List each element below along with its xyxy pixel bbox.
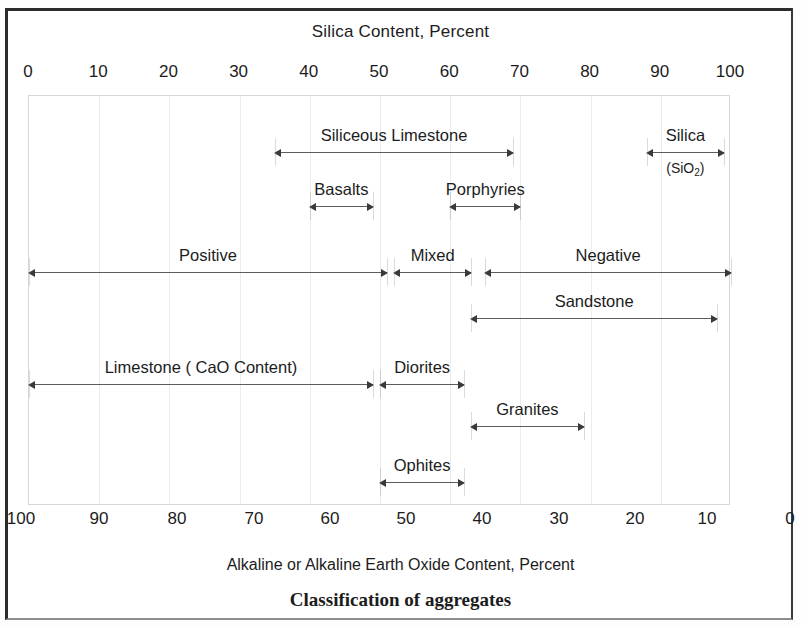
- range-end-cap: [380, 370, 381, 398]
- range-bar: [275, 152, 514, 153]
- range-end-cap: [731, 258, 732, 286]
- top-tick-80: 80: [560, 62, 620, 82]
- bottom-tick-90: 90: [69, 509, 129, 529]
- top-tick-0: 0: [0, 62, 58, 82]
- range-label: Silica: [666, 126, 705, 145]
- range-end-cap: [584, 412, 585, 440]
- top-tick-100: 100: [700, 62, 760, 82]
- range-bar: [380, 482, 464, 483]
- range-end-cap: [464, 370, 465, 398]
- range-sublabel: (SiO2): [666, 160, 704, 176]
- gridline: [240, 96, 241, 504]
- range-label: Basalts: [314, 180, 368, 199]
- range-end-cap: [471, 304, 472, 332]
- bottom-tick-80: 80: [147, 509, 207, 529]
- top-tick-60: 60: [419, 62, 479, 82]
- range-bar: [471, 318, 717, 319]
- range-label: Granites: [496, 400, 558, 419]
- top-tick-40: 40: [279, 62, 339, 82]
- range-end-cap: [275, 138, 276, 166]
- top-tick-20: 20: [138, 62, 198, 82]
- range-label: Limestone ( CaO Content): [105, 358, 298, 377]
- range-end-cap: [29, 258, 30, 286]
- range-bar: [29, 272, 387, 273]
- range-end-cap: [647, 138, 648, 166]
- bottom-tick-100: 100: [0, 509, 51, 529]
- bottom-tick-70: 70: [224, 509, 284, 529]
- range-label: Porphyries: [446, 180, 525, 199]
- bottom-tick-40: 40: [452, 509, 512, 529]
- range-label: Ophites: [394, 456, 451, 475]
- bottom-tick-0: 0: [760, 509, 801, 529]
- range-end-cap: [387, 258, 388, 286]
- range-bar: [647, 152, 724, 153]
- range-end-cap: [310, 192, 311, 220]
- bottom-tick-20: 20: [605, 509, 665, 529]
- top-tick-90: 90: [630, 62, 690, 82]
- gridline: [169, 96, 170, 504]
- gridline: [450, 96, 451, 504]
- top-tick-30: 30: [209, 62, 269, 82]
- range-label: Negative: [576, 246, 641, 265]
- range-label: Diorites: [394, 358, 450, 377]
- bottom-tick-50: 50: [376, 509, 436, 529]
- range-bar: [29, 384, 373, 385]
- figure-classification-of-aggregates: Silica Content, Percent 0102030405060708…: [0, 0, 801, 628]
- range-bar: [394, 272, 471, 273]
- top-tick-70: 70: [489, 62, 549, 82]
- range-bar: [380, 384, 464, 385]
- range-bar: [310, 206, 373, 207]
- range-end-cap: [373, 370, 374, 398]
- gridline: [310, 96, 311, 504]
- range-end-cap: [373, 192, 374, 220]
- range-end-cap: [717, 304, 718, 332]
- range-bar: [485, 272, 731, 273]
- range-end-cap: [394, 258, 395, 286]
- gridline: [99, 96, 100, 504]
- range-bar: [450, 206, 520, 207]
- range-label: Mixed: [411, 246, 455, 265]
- bottom-tick-10: 10: [677, 509, 737, 529]
- range-label: Sandstone: [555, 292, 634, 311]
- gridline: [661, 96, 662, 504]
- top-tick-10: 10: [68, 62, 128, 82]
- range-bar: [471, 426, 583, 427]
- bottom-tick-30: 30: [529, 509, 589, 529]
- bottom-tick-60: 60: [300, 509, 360, 529]
- gridline: [380, 96, 381, 504]
- top-tick-50: 50: [349, 62, 409, 82]
- range-end-cap: [485, 258, 486, 286]
- range-end-cap: [29, 370, 30, 398]
- figure-caption: Classification of aggregates: [0, 589, 801, 611]
- range-label: Siliceous Limestone: [321, 126, 468, 145]
- gridline: [520, 96, 521, 504]
- range-end-cap: [471, 258, 472, 286]
- range-end-cap: [464, 468, 465, 496]
- range-end-cap: [471, 412, 472, 440]
- range-end-cap: [380, 468, 381, 496]
- plot-area: Siliceous LimestoneSilica(SiO2)BasaltsPo…: [28, 95, 730, 505]
- range-end-cap: [724, 138, 725, 166]
- bottom-axis-title: Alkaline or Alkaline Earth Oxide Content…: [0, 556, 801, 574]
- range-label: Positive: [179, 246, 237, 265]
- range-end-cap: [513, 138, 514, 166]
- top-axis-title: Silica Content, Percent: [0, 22, 801, 42]
